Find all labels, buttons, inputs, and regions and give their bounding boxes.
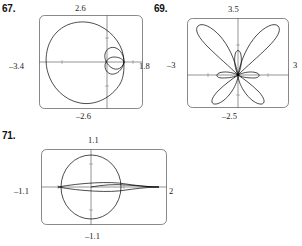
figure-71-label-top: 1.1 [88,136,99,145]
figure-67-plot [38,14,144,110]
figure-71-label-right: 2 [169,187,173,196]
figure-69-label-left: –3 [167,61,176,70]
answer-key-page: 67. 2.6 –3.4 1.8 –2.6 69. [0,0,302,246]
figure-69: 69. [152,0,302,126]
figure-67-label-bottom: –2.6 [76,112,91,121]
figure-69-number: 69. [154,3,167,14]
figure-67: 67. 2.6 –3.4 1.8 –2.6 [0,0,152,126]
figure-71-plot [40,148,168,226]
figure-71-label-left: –1.1 [14,187,29,196]
figure-67-label-left: –3.4 [9,62,24,71]
figure-71-label-bottom: –1.1 [85,232,100,241]
figure-67-label-top: 2.6 [75,4,86,13]
figure-71-number: 71. [2,130,15,141]
figure-67-number: 67. [2,3,15,14]
figure-69-plot [186,17,290,109]
figure-67-label-right: 1.8 [139,62,150,71]
figure-69-label-right: 3 [293,61,297,70]
figure-71: 71. 1.1 –1.1 2 –1.1 [0,126,210,246]
figure-69-label-bottom: –2.5 [222,112,237,121]
figure-69-label-top: 3.5 [228,5,239,14]
